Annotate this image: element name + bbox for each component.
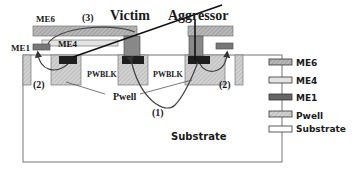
label-pwell: Pwell [113, 91, 137, 102]
label-aggressor: Aggressor [168, 8, 228, 23]
label-me6: ME6 [36, 14, 55, 24]
contact-aggressor [188, 56, 210, 64]
legend-label-me4: ME4 [296, 76, 317, 86]
contact-middle [122, 56, 144, 64]
label-me1: ME1 [11, 43, 30, 53]
aggressor-via-stack [189, 36, 203, 56]
legend-swatch-me1 [269, 94, 292, 100]
label-substrate: Substrate [171, 131, 227, 142]
label-pwblk-left: PWBLK [87, 70, 118, 79]
label-me4: ME4 [58, 39, 77, 49]
pwell-right-edge [235, 55, 243, 85]
me6-layer [33, 26, 137, 36]
pwell-left-edge [23, 55, 31, 85]
label-pwblk-right: PWBLK [153, 70, 184, 79]
legend-swatch-me4 [269, 77, 292, 83]
crosstalk-diagram: ME6 (3) Victim Aggressor ME1 ME4 PWBLK P… [0, 0, 359, 169]
legend-label-me6: ME6 [296, 58, 317, 68]
legend-swatch-substrate [269, 126, 292, 132]
label-path1: (1) [152, 107, 164, 119]
label-path2-left: (2) [33, 79, 45, 91]
legend-label-substrate: Substrate [296, 124, 346, 134]
me1-right-pad [216, 43, 233, 49]
me1-left-pad [33, 44, 50, 50]
label-path2-right: (2) [219, 79, 231, 91]
label-path3: (3) [82, 12, 94, 24]
legend-swatch-pwell [269, 111, 292, 117]
legend-swatch-me6 [269, 59, 292, 65]
label-victim: Victim [110, 8, 150, 23]
legend-label-me1: ME1 [296, 93, 317, 103]
legend-label-pwell: Pwell [296, 111, 323, 121]
